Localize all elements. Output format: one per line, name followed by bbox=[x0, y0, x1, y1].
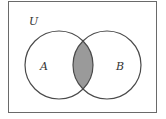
set-b-label: B bbox=[115, 60, 124, 73]
venn-diagram: U A B bbox=[0, 0, 166, 119]
set-a-label: A bbox=[39, 60, 48, 73]
universe-label: U bbox=[29, 15, 39, 28]
